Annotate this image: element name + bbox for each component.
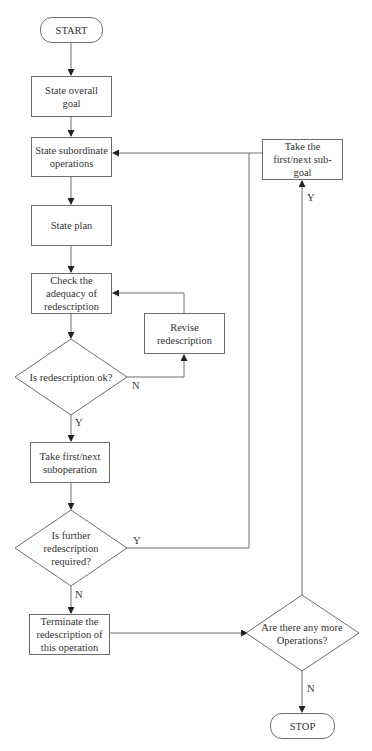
decision-more-ops-label: Are there any more Operations? [258, 620, 346, 648]
state-plan-label: State plan [51, 219, 93, 232]
check-adequacy-box: Check the adequacy of redescription [31, 273, 112, 314]
state-subops-label: State subordinate operations [35, 144, 108, 170]
terminate-label: Terminate the redescription of this oper… [33, 615, 106, 654]
state-plan-box: State plan [31, 205, 112, 246]
take-subop-label: Take first/next suboperation [34, 450, 106, 476]
stop-terminal: STOP [270, 713, 335, 739]
revise-label: Revise redescription [148, 321, 221, 347]
decision-further-label: Is further redescription required? [35, 528, 107, 568]
state-subops-box: State subordinate operations [31, 137, 112, 177]
edge-label-more-ops-yes: Y [307, 192, 315, 203]
check-adequacy-label: Check the adequacy of redescription [35, 274, 108, 313]
edge-label-more-ops-no: N [307, 683, 315, 694]
edge-label-further-no: N [75, 589, 83, 600]
take-subgoal-box: Take the first/next sub-goal [262, 139, 343, 180]
start-label: START [56, 24, 88, 37]
terminate-box: Terminate the redescription of this oper… [29, 614, 110, 655]
decision-is-ok-label: Is redescription ok? [20, 367, 122, 387]
start-terminal: START [40, 17, 103, 43]
edge-label-is-ok-yes: Y [75, 417, 83, 428]
state-goal-box: State overall goal [31, 76, 112, 117]
stop-label: STOP [290, 720, 316, 733]
state-goal-label: State overall goal [35, 84, 108, 110]
take-subgoal-label: Take the first/next sub-goal [266, 140, 339, 179]
edge-label-is-ok-no: N [132, 380, 140, 391]
revise-box: Revise redescription [144, 313, 225, 354]
take-subop-box: Take first/next suboperation [30, 442, 110, 483]
edge-label-further-yes: Y [133, 535, 141, 546]
